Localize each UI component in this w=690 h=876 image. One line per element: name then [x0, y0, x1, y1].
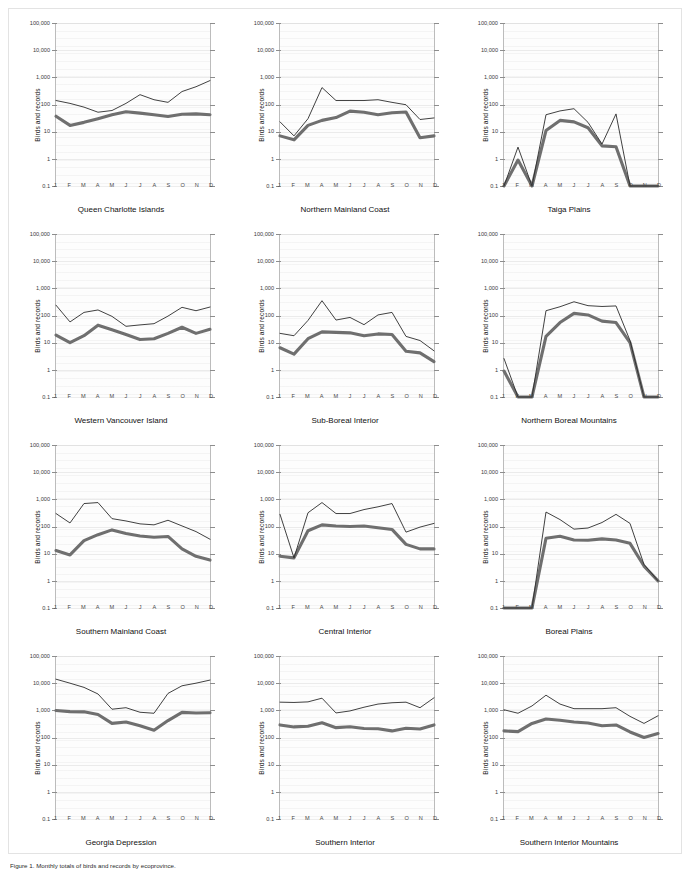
x-axis-tick-label: A	[600, 182, 604, 188]
x-axis-tick-label: J	[125, 604, 128, 610]
y-tick-label: 0.1	[490, 183, 498, 189]
x-axis-tick-label: M	[81, 393, 86, 399]
chart-panel: Birds and records100,00010,0001,00010010…	[233, 642, 457, 853]
series-canvas	[280, 234, 434, 397]
y-tick-mark-right	[658, 288, 663, 289]
x-axis-tick-label: M	[529, 393, 534, 399]
x-axis-tick-label: M	[333, 604, 338, 610]
y-tick-label: 100	[265, 734, 274, 740]
series-canvas	[56, 23, 210, 186]
series-line-records	[504, 302, 658, 397]
y-tick-label: 10	[44, 550, 50, 556]
x-axis-tick-label: J	[363, 604, 366, 610]
y-tick-label: 0.1	[490, 394, 498, 400]
panel-title: Boreal Plains	[457, 627, 681, 636]
y-tick-mark-right	[434, 234, 439, 235]
x-axis-tick-label: J	[139, 393, 142, 399]
y-tick-label: 1	[47, 156, 50, 162]
y-tick-label: 100	[265, 312, 274, 318]
y-tick-mark-right	[210, 792, 215, 793]
x-axis: JFMAMJJASOND	[503, 182, 659, 192]
y-tick-label: 1,000	[36, 74, 50, 80]
y-tick-label: 0.1	[490, 816, 498, 822]
x-axis-tick-label: M	[557, 182, 562, 188]
x-axis-tick-label: O	[180, 182, 184, 188]
y-tick-mark-right	[210, 50, 215, 51]
y-tick-mark-right	[210, 581, 215, 582]
x-axis-tick-label: O	[628, 815, 632, 821]
x-axis-tick-label: A	[96, 604, 100, 610]
series-line-birds	[280, 111, 434, 140]
y-tick-mark-right	[658, 499, 663, 500]
x-axis-tick-label: M	[529, 604, 534, 610]
y-tick-label: 1	[47, 367, 50, 373]
series-line-records	[504, 695, 658, 723]
y-tick-label: 100,000	[254, 231, 274, 237]
x-axis: JFMAMJJASOND	[55, 815, 211, 825]
chart-panel: Birds and records100,00010,0001,00010010…	[9, 642, 233, 853]
x-axis-tick-label: F	[67, 182, 70, 188]
y-tick-mark-right	[434, 261, 439, 262]
x-axis-tick-label: D	[209, 815, 213, 821]
x-axis-tick-label: D	[433, 815, 437, 821]
plot-area: 100,00010,0001,0001001010.1	[279, 234, 435, 397]
y-axis-label: Birds and records	[482, 299, 489, 352]
y-tick-mark-right	[658, 765, 663, 766]
x-axis-tick-label: S	[615, 393, 619, 399]
y-tick-label: 100,000	[478, 20, 498, 26]
plot-area: 100,00010,0001,0001001010.1	[279, 23, 435, 186]
chart-panel: Birds and records100,00010,0001,00010010…	[457, 220, 681, 431]
y-tick-mark-right	[658, 343, 663, 344]
x-axis-tick-label: F	[291, 604, 294, 610]
x-axis-tick-label: S	[391, 604, 395, 610]
x-axis-tick-label: S	[167, 604, 171, 610]
y-tick-mark-right	[210, 261, 215, 262]
chart-panel: Birds and records100,00010,0001,00010010…	[9, 220, 233, 431]
y-tick-mark-right	[434, 445, 439, 446]
x-axis-tick-label: N	[643, 815, 647, 821]
y-tick-label: 10,000	[33, 469, 50, 475]
x-axis-tick-label: J	[125, 815, 128, 821]
plot-area: 100,00010,0001,0001001010.1	[55, 656, 211, 819]
y-tick-mark-right	[434, 499, 439, 500]
series-canvas	[56, 656, 210, 819]
x-axis-tick-label: M	[109, 604, 114, 610]
x-axis-tick-label: J	[139, 815, 142, 821]
x-axis-tick-label: D	[209, 604, 213, 610]
y-tick-label: 100,000	[478, 442, 498, 448]
y-tick-mark-right	[434, 710, 439, 711]
y-tick-mark-right	[210, 554, 215, 555]
y-tick-mark-right	[434, 105, 439, 106]
plot-area: 100,00010,0001,0001001010.1	[279, 656, 435, 819]
y-tick-label: 1,000	[260, 285, 274, 291]
y-tick-label: 1	[47, 578, 50, 584]
x-axis-tick-label: M	[305, 182, 310, 188]
y-axis-label: Birds and records	[482, 88, 489, 141]
x-axis: JFMAMJJASOND	[503, 393, 659, 403]
y-tick-label: 1	[271, 789, 274, 795]
x-axis-tick-label: D	[657, 604, 661, 610]
y-tick-mark-right	[210, 23, 215, 24]
y-tick-label: 1	[47, 789, 50, 795]
x-axis-tick-label: N	[419, 393, 423, 399]
x-axis-tick-label: J	[502, 815, 505, 821]
x-axis-tick-label: N	[643, 604, 647, 610]
series-line-birds	[504, 719, 658, 738]
series-canvas	[504, 656, 658, 819]
y-tick-label: 10	[44, 339, 50, 345]
y-tick-label: 0.1	[42, 183, 50, 189]
x-axis-tick-label: O	[404, 393, 408, 399]
y-tick-mark-right	[658, 738, 663, 739]
y-tick-label: 10	[268, 761, 274, 767]
chart-panel: Birds and records100,00010,0001,00010010…	[457, 642, 681, 853]
y-tick-mark-right	[658, 445, 663, 446]
y-tick-label: 100	[265, 523, 274, 529]
y-tick-mark-right	[434, 472, 439, 473]
x-axis-tick-label: M	[109, 393, 114, 399]
plot-area: 100,00010,0001,0001001010.1	[503, 23, 659, 186]
y-tick-label: 100,000	[30, 653, 50, 659]
x-axis-tick-label: O	[180, 604, 184, 610]
y-tick-mark-right	[210, 445, 215, 446]
x-axis-tick-label: D	[209, 182, 213, 188]
x-axis-tick-label: J	[278, 182, 281, 188]
